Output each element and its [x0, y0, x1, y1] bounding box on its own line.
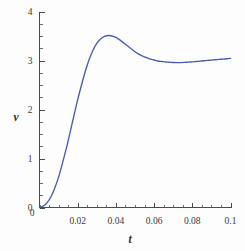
- x-axis-tick-labels: 0.020.040.060.080.10: [30, 208, 237, 226]
- y-tick-label: 2: [28, 105, 33, 115]
- x-tick-label: 0.02: [69, 216, 86, 226]
- data-series-group: [40, 35, 231, 207]
- axes-group: [40, 12, 231, 208]
- chart-figure: 01234 0.020.040.060.080.10 v t: [0, 0, 245, 251]
- x-tick-label: 0.08: [184, 216, 201, 226]
- x-tick-label: 0.04: [108, 216, 125, 226]
- x-axis-label: t: [128, 233, 132, 245]
- data-line-v-of-t: [40, 35, 231, 207]
- y-tick-label: 1: [28, 154, 33, 164]
- origin-tick-label: 0: [30, 208, 35, 218]
- y-tick-label: 4: [28, 7, 33, 17]
- y-axis-tick-labels: 01234: [28, 7, 33, 213]
- x-tick-label: 0.06: [146, 216, 163, 226]
- y-axis-ticks: [40, 13, 45, 209]
- y-tick-label: 3: [28, 56, 33, 66]
- x-tick-label: 0.1: [225, 216, 237, 226]
- chart-plot-area: 01234 0.020.040.060.080.10 v t: [0, 0, 245, 251]
- x-axis-ticks: [41, 203, 232, 208]
- y-axis-label: v: [13, 111, 19, 123]
